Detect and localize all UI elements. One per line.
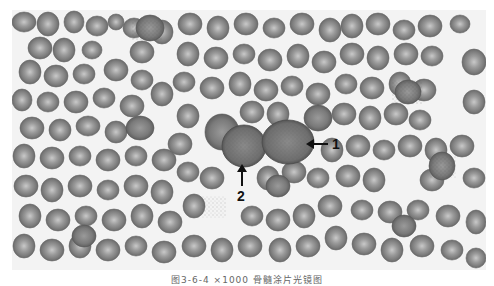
blood-smear-micrograph: 1 2 bbox=[12, 10, 486, 270]
annotation-label-1: 1 bbox=[332, 137, 340, 151]
annotated-cell-1 bbox=[262, 120, 314, 164]
annotated-cell-2 bbox=[222, 125, 266, 167]
figure-caption: 图3-6-4 ×1000 骨髓涂片光镜图 bbox=[0, 273, 494, 286]
annotation-label-2: 2 bbox=[237, 189, 245, 203]
